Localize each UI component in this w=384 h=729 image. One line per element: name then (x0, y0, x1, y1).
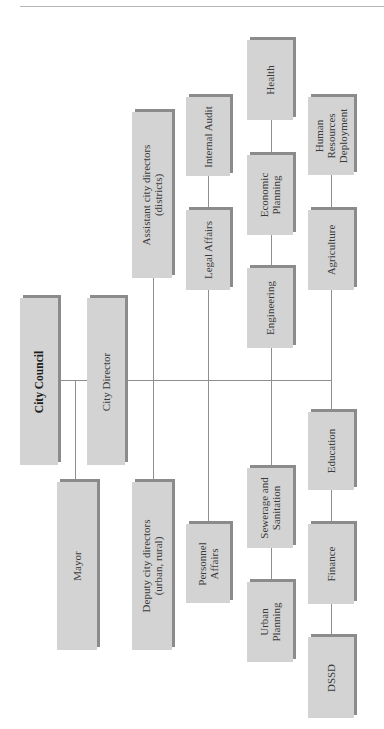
node-city-council: City Council (20, 298, 58, 465)
node-dssd: DSSD (308, 637, 354, 718)
connector-engineering-sewerage (271, 348, 272, 466)
node-label: Finance (325, 547, 337, 582)
node-deputy-city-directors: Deputy city directors (urban, rural) (132, 482, 172, 650)
node-hr-deployment: Human Resources Deployment (308, 97, 354, 175)
connector-assistant-deputy (153, 278, 154, 480)
node-label: Urban Planning (258, 602, 282, 641)
node-label: Internal Audit (202, 106, 214, 167)
node-label: Deputy city directors (urban, rural) (140, 520, 164, 613)
node-label: Mayor (71, 551, 83, 580)
node-label: Engineering (264, 281, 276, 335)
node-label: Education (325, 429, 337, 474)
connector-sewerage-urban (271, 548, 272, 580)
node-label: Agriculture (325, 225, 337, 276)
node-label: Human Resources Deployment (313, 109, 349, 163)
node-health: Health (247, 40, 293, 120)
node-engineering: Engineering (247, 268, 293, 348)
connector-council-director (58, 380, 87, 381)
connector-legal-personnel (208, 290, 209, 522)
node-personnel-affairs: Personnel Affairs (186, 524, 230, 603)
node-label: DSSD (325, 663, 337, 691)
node-label: Personnel Affairs (196, 542, 220, 585)
connector-finance-dssd (331, 604, 332, 635)
connector-to-mayor (75, 380, 76, 480)
node-sewerage-sanitation: Sewerage and Sanitation (247, 468, 293, 548)
connector-hr-agri (331, 175, 332, 208)
node-label: Health (264, 65, 276, 94)
node-label: Sewerage and Sanitation (258, 477, 282, 538)
node-finance: Finance (308, 524, 354, 604)
connector-audit-legal (208, 176, 209, 208)
node-assistant-city-directors: Assistant city directors (districts) (132, 112, 172, 278)
node-internal-audit: Internal Audit (186, 97, 230, 176)
node-city-director: City Director (87, 298, 125, 465)
node-label: City Director (100, 352, 112, 410)
connector-director-main (124, 380, 332, 381)
node-label: Assistant city directors (districts) (140, 145, 164, 246)
node-mayor: Mayor (57, 482, 97, 650)
node-legal-affairs: Legal Affairs (186, 210, 230, 290)
connector-health-econ (271, 120, 272, 153)
connector-education-finance (331, 490, 332, 522)
node-economic-planning: Economic Planning (247, 155, 293, 235)
connector-agri-education (331, 290, 332, 410)
node-label: City Council (33, 350, 45, 412)
node-label: Economic Planning (258, 173, 282, 218)
node-label: Legal Affairs (202, 221, 214, 279)
node-education: Education (308, 412, 354, 490)
node-agriculture: Agriculture (308, 210, 354, 290)
node-urban-planning: Urban Planning (247, 582, 293, 662)
top-rule (20, 6, 384, 7)
connector-econ-engineering (271, 235, 272, 266)
